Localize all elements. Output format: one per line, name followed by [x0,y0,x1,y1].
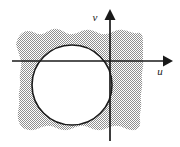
shaded-region-fill [0,0,180,147]
vertical-axis-label: v [93,11,98,23]
shaded-region [0,0,180,147]
vertical-axis-arrowhead-icon [105,9,116,20]
uv-plane-diagram: v u [0,0,180,147]
horizontal-axis-label: u [157,65,163,77]
diagram-canvas: v u [0,0,180,147]
horizontal-axis-arrowhead-icon [163,56,173,67]
